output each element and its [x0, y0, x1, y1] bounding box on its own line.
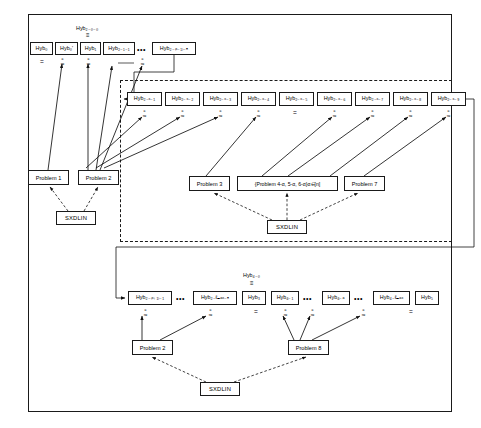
mid-connector-approx-1: c ≈ — [140, 109, 149, 118]
assumption-box-sxdlin-middle[interactable]: SXDLIN — [267, 220, 307, 234]
bottom-connector-approx-5: c ≈ — [359, 308, 368, 317]
node-label: Hyb₄₋₁ — [277, 295, 294, 300]
hyb-node-2-x-3[interactable]: Hyb₂₋ₓ₋₃ — [203, 92, 238, 106]
hyb-node-2-x-4[interactable]: Hyb₂₋ₓ₋₄ — [241, 92, 276, 106]
node-label: Hyb₂₋ₓ₋₈ — [400, 96, 422, 101]
problem-label: {Problem 4-α, 5-α, 6-α}α∈[n] — [255, 181, 321, 187]
hyb-node-hyb5[interactable]: Hyb₅ — [415, 291, 439, 305]
node-label: Hyb₂₋ₓ₋₇ — [362, 96, 383, 101]
hyb-node-2-x-5[interactable]: Hyb₂₋ₓ₋₅ — [279, 92, 314, 106]
top-connector-approx-2: c ≈ — [84, 57, 93, 66]
top-row-ellipsis: ••• — [137, 46, 146, 53]
problem-box-problem7[interactable]: Problem 7 — [344, 176, 385, 191]
hyb-node-2-x-7[interactable]: Hyb₂₋ₓ₋₇ — [355, 92, 390, 106]
hyb-node-hyb2-x1-n[interactable]: Hyb₂₋₍ₓ₋₁₎₋ₙ — [152, 42, 196, 55]
mid-connector-approx-2: c ≈ — [178, 109, 187, 118]
bottom-group-equiv: ≡ — [250, 280, 254, 286]
node-label: Hyb₂₋₍ₓ₋₁₎₋ₙ — [160, 46, 188, 51]
node-label: Hyb₂₋ₓ₋₉ — [438, 96, 460, 101]
problem-label: Problem 2 — [86, 175, 112, 181]
node-label: Hyb₂₋ℓₘₐₓ₋ₙ — [201, 295, 229, 300]
hyb-node-hyb0prime[interactable]: Hyb₀' — [55, 42, 78, 55]
mid-connector-approx-6: c ≈ — [368, 109, 377, 118]
mid-connector-approx-5: c ≈ — [330, 109, 339, 118]
hyb-node-2-x-9[interactable]: Hyb₂₋ₓ₋₉ — [431, 92, 466, 106]
top-group-equiv: ≡ — [86, 32, 90, 38]
mid-connector-approx-3: c ≈ — [216, 109, 225, 118]
node-label: Hyb₂₋ₓ₋₃ — [210, 96, 232, 101]
problem-label: Problem 1 — [36, 175, 62, 181]
hyb-node-hyb3[interactable]: Hyb₃ — [242, 291, 266, 305]
top-connector-equals: = — [40, 59, 44, 66]
problem-box-problem8[interactable]: Problem 8 — [288, 340, 329, 355]
mid-connector-approx-4: c ≈ — [254, 109, 263, 118]
mid-connector-approx-7: c ≈ — [406, 109, 415, 118]
node-label: Hyb₀ — [36, 46, 48, 51]
hyb-node-hyb4-lmax[interactable]: Hyb₄₋ℓₘₐₓ — [373, 291, 410, 305]
hyb-node-2-x-2[interactable]: Hyb₂₋ₓ₋₂ — [165, 92, 200, 106]
node-label: Hyb₅ — [421, 295, 433, 300]
bottom-connector-approx-2: c ≈ — [206, 308, 215, 317]
bottom-group-label: Hyb₄₋₀ — [243, 272, 260, 278]
hyb-node-2-x-1[interactable]: Hyb₂₋ₓ₋₁ — [127, 92, 162, 106]
bottom-connector-approx-4: c ≈ — [308, 308, 317, 317]
node-label: Hyb₃ — [248, 295, 260, 300]
node-label: Hyb₁ — [85, 46, 96, 51]
assumption-label: SXDLIN — [276, 224, 298, 230]
top-group-label: Hyb₂₋₀₋₀ — [76, 25, 98, 31]
problem-label: Problem 3 — [197, 181, 223, 187]
problem-box-problem3[interactable]: Problem 3 — [189, 176, 230, 191]
problem-label: Problem 7 — [352, 181, 378, 187]
top-connector-approx-3: c ≈ — [138, 57, 147, 66]
problem-label: Problem 8 — [296, 345, 322, 351]
bottom-connector-equals-2: = — [409, 309, 413, 316]
hyb-node-2-x1-1[interactable]: Hyb₂₋₍ₓ₊₁₎₋₁ — [128, 291, 172, 305]
bottom-connector-equals-1: = — [254, 309, 258, 316]
problem-box-problem1[interactable]: Problem 1 — [28, 170, 69, 185]
mid-connector-equals: = — [293, 110, 297, 117]
problem-box-problem2-upper[interactable]: Problem 2 — [78, 170, 119, 185]
node-label: Hyb₄₋ₐ — [328, 295, 345, 300]
mid-connector-approx-8: c ≈ — [444, 109, 453, 118]
hyb-node-hyb4-a[interactable]: Hyb₄₋ₐ — [322, 291, 350, 305]
problem-box-problem456-set[interactable]: {Problem 4-α, 5-α, 6-α}α∈[n] — [237, 176, 338, 191]
assumption-box-sxdlin-left[interactable]: SXDLIN — [56, 211, 96, 225]
assumption-label: SXDLIN — [65, 215, 87, 221]
hyb-node-hyb1[interactable]: Hyb₁ — [80, 42, 101, 55]
hyb-node-hyb2-1-1[interactable]: Hyb₂₋₁₋₁ — [103, 42, 135, 55]
diagram-canvas: Hyb₂₋₀₋₀ ≡ Hyb₀ Hyb₀' Hyb₁ Hyb₂₋₁₋₁ ••• … — [0, 0, 481, 428]
problem-box-problem2-lower[interactable]: Problem 2 — [132, 340, 173, 355]
node-label: Hyb₄₋ℓₘₐₓ — [380, 295, 403, 300]
node-label: Hyb₂₋ₓ₋₂ — [172, 96, 194, 101]
assumption-box-sxdlin-bottom[interactable]: SXDLIN — [200, 382, 240, 396]
node-label: Hyb₂₋ₓ₋₁ — [134, 96, 155, 101]
hyb-node-2-x-8[interactable]: Hyb₂₋ₓ₋₈ — [393, 92, 428, 106]
node-label: Hyb₀' — [60, 46, 73, 51]
problem-label: Problem 2 — [140, 345, 166, 351]
hyb-node-hyb4-1[interactable]: Hyb₄₋₁ — [271, 291, 299, 305]
hyb-node-2-x-6[interactable]: Hyb₂₋ₓ₋₆ — [317, 92, 352, 106]
bottom-ellipsis-1: ••• — [176, 295, 185, 302]
node-label: Hyb₂₋₁₋₁ — [108, 46, 129, 51]
assumption-label: SXDLIN — [209, 386, 231, 392]
node-label: Hyb₂₋ₓ₋₄ — [248, 96, 270, 101]
hyb-node-2-lmax-n[interactable]: Hyb₂₋ℓₘₐₓ₋ₙ — [193, 291, 237, 305]
node-label: Hyb₂₋₍ₓ₊₁₎₋₁ — [136, 295, 164, 300]
node-label: Hyb₂₋ₓ₋₆ — [324, 96, 346, 101]
hyb-node-hyb0[interactable]: Hyb₀ — [30, 42, 53, 55]
bottom-connector-approx-1: c ≈ — [141, 308, 150, 317]
top-connector-approx-1: c ≈ — [58, 57, 67, 66]
bottom-ellipsis-2: ••• — [303, 295, 312, 302]
bottom-ellipsis-3: ••• — [354, 295, 363, 302]
bottom-connector-approx-3: c ≈ — [281, 308, 290, 317]
node-label: Hyb₂₋ₓ₋₅ — [286, 96, 308, 101]
